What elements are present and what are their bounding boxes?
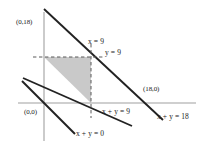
line-label-x-plus-y-equals-18: x + y = 18 [157,113,189,121]
point-label-0-18: (0,18) [16,19,32,26]
line-label-x-plus-y-equals-9: x + y = 9 [102,108,130,116]
math-diagram-figure: (0,18) x = 9 y = 9 (18,0) (0,0) x + y = … [0,0,202,151]
line-label-x-equals-9: x = 9 [88,38,104,46]
line-label-x-plus-y-equals-0: x + y = 0 [76,130,104,138]
point-label-0-0: (0,0) [24,109,37,116]
line-label-y-equals-9: y = 9 [105,49,121,57]
shaded-feasible-region [44,57,91,103]
point-label-18-0: (18,0) [143,86,159,93]
